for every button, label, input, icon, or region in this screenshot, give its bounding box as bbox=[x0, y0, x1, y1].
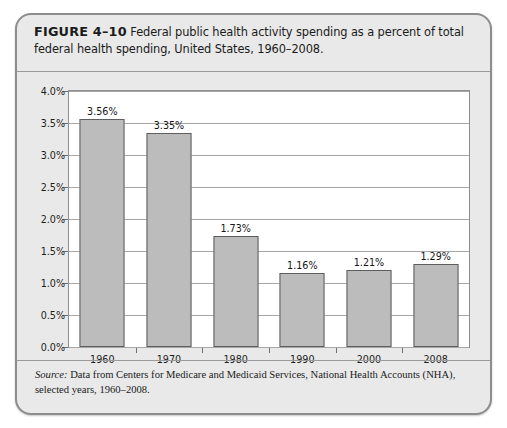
bar-group: 3.56% bbox=[69, 91, 136, 347]
bar-group: 1.16% bbox=[269, 91, 336, 347]
x-axis-tick-mark bbox=[202, 348, 203, 353]
source-text: Data from Centers for Medicare and Medic… bbox=[35, 369, 455, 395]
bar bbox=[280, 273, 325, 347]
y-axis-tick-label: 2.0% bbox=[21, 214, 65, 225]
y-axis-tick-label: 1.0% bbox=[21, 278, 65, 289]
y-axis-tick-label: 0.0% bbox=[21, 342, 65, 353]
x-axis-tick-mark bbox=[402, 348, 403, 353]
y-axis-tick-label: 4.0% bbox=[21, 86, 65, 97]
source-note: Source: Data from Centers for Medicare a… bbox=[35, 367, 475, 397]
source-label: Source: bbox=[35, 369, 68, 380]
bar-value-label: 1.73% bbox=[220, 223, 250, 234]
bars-layer: 3.56%3.35%1.73%1.16%1.21%1.29% bbox=[69, 91, 469, 347]
bar-value-label: 1.29% bbox=[420, 251, 450, 262]
y-axis-tick-label: 3.5% bbox=[21, 118, 65, 129]
x-axis-tick-mark bbox=[269, 348, 270, 353]
bar-group: 3.35% bbox=[136, 91, 203, 347]
bar bbox=[413, 264, 458, 347]
x-axis-tick-mark bbox=[136, 348, 137, 353]
bar-group: 1.21% bbox=[336, 91, 403, 347]
bar-chart: 0.0%0.5%1.0%1.5%2.0%2.5%3.0%3.5%4.0% 3.5… bbox=[17, 71, 492, 360]
bar bbox=[346, 270, 391, 347]
y-axis-tick-label: 3.0% bbox=[21, 150, 65, 161]
figure-panel: FIGURE 4–10 Federal public health activi… bbox=[15, 13, 492, 415]
bar-value-label: 1.16% bbox=[287, 260, 317, 271]
bar-group: 1.29% bbox=[402, 91, 469, 347]
bar bbox=[80, 119, 125, 347]
y-axis-tick-label: 0.5% bbox=[21, 310, 65, 321]
figure-caption: FIGURE 4–10 Federal public health activi… bbox=[34, 23, 474, 58]
bar-value-label: 1.21% bbox=[354, 257, 384, 268]
y-axis-tick-label: 2.5% bbox=[21, 182, 65, 193]
figure-number-label: FIGURE 4–10 bbox=[34, 24, 127, 39]
y-axis-tick-label: 1.5% bbox=[21, 246, 65, 257]
bar-value-label: 3.35% bbox=[154, 120, 184, 131]
bar bbox=[146, 133, 191, 347]
bar-group: 1.73% bbox=[202, 91, 269, 347]
bar-value-label: 3.56% bbox=[87, 106, 117, 117]
x-axis-tick-mark bbox=[336, 348, 337, 353]
bar bbox=[213, 236, 258, 347]
source-divider bbox=[17, 360, 490, 361]
